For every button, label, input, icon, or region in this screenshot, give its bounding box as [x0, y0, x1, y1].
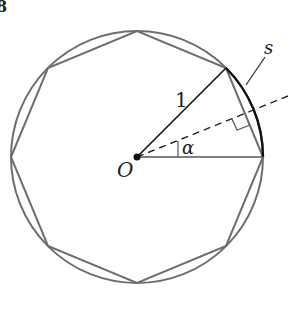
- bisector-dashed: [137, 96, 288, 157]
- center-point: [134, 154, 141, 161]
- label-arc-s: s: [264, 37, 273, 58]
- label-radius-1: 1: [175, 88, 188, 112]
- figure-number: 8: [0, 0, 7, 16]
- arc-s-leader: [246, 57, 265, 85]
- label-center-o: O: [117, 158, 133, 182]
- inscribed-octagon-diagram: 8 1 s O α: [0, 0, 294, 309]
- label-angle-alpha: α: [182, 137, 194, 158]
